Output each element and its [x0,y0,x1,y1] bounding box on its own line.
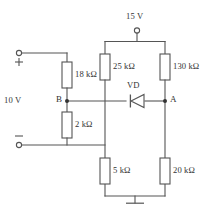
label-supply-15v: 15 V [126,12,143,21]
resistor-25k-body [100,54,110,80]
label-node-a: A [170,95,177,104]
label-resistor-20k: 20 kΩ [173,166,195,175]
label-resistor-5k: 5 kΩ [113,166,131,175]
label-diode-vd: VD [127,81,140,90]
label-node-b: B [56,95,62,104]
resistor-5k-body [100,158,110,184]
bottom-rail-ground-group [105,196,165,203]
diode-vd-triangle [131,95,144,108]
terminal-minus-circle[interactable] [16,142,21,147]
resistor-2k-body [62,112,72,138]
resistor-18k-body [62,62,72,88]
label-resistor-2k: 2 kΩ [75,120,93,129]
circuit-diagram: 15 V 10 V B A 18 kΩ 2 kΩ 25 kΩ 5 kΩ 130 … [0,0,215,214]
resistor-20k-body [160,158,170,184]
junction-dot-node-a [163,99,167,103]
label-supply-10v: 10 V [4,96,21,105]
circuit-schematic-canvas [0,0,215,214]
right-rail-group [160,42,170,197]
label-resistor-18k: 18 kΩ [75,70,97,79]
junction-dot-node-b [65,99,69,103]
diode-branch-group [67,95,167,108]
resistor-130k-body [160,54,170,80]
middle-rail-group [100,42,110,197]
label-resistor-25k: 25 kΩ [113,62,135,71]
label-resistor-130k: 130 kΩ [173,62,199,71]
terminal-15v-circle[interactable] [134,28,139,33]
supply-15v-group [105,28,165,42]
terminal-plus-circle[interactable] [16,50,21,55]
